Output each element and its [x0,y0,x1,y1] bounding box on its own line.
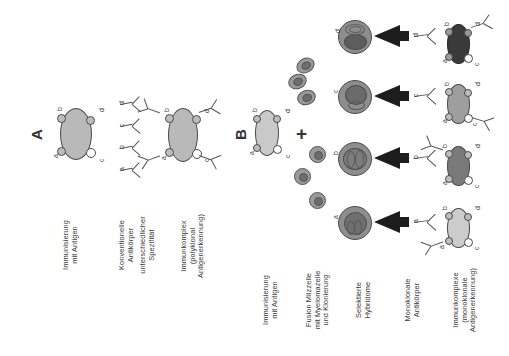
panel-a-complex-label-a: a [160,156,167,160]
complex-epitope-label-d-c: d [474,82,481,86]
panel-a-epitope-knob-b [57,114,66,123]
panel-letter-b: B [232,129,249,140]
production-arrow-tail-b [400,153,409,163]
complex-epitope-label-b-a: b [441,206,448,210]
hybridoma-label-d: d [334,29,341,33]
panel-a-caption-antibodies-2: unterschiedlicher Spezifität [139,202,156,288]
panel-b-epitope-label-d: d [284,109,291,113]
panel-b-epitope-label-b: b [251,108,258,112]
hybridoma-cell-d [338,20,372,54]
panel-a-antibody-label-d: d [118,101,125,105]
complex-epitope-label-a-a: a [438,245,445,249]
complex-epitope-label-c-d: c [473,63,480,67]
complex-epitope-label-a-d: a [441,59,448,63]
hybridoma-cell-b [338,142,372,176]
complex-epitope-label-d-a: d [474,206,481,210]
panel-b-caption-fusion: Fusion Milzzelle mit Myelomazelle und Kl… [305,252,331,348]
complex-epitope-label-c-c: c [471,123,478,127]
complex-epitope-label-b-b: b [441,144,448,148]
complex-epitope-label-d-b: d [474,144,481,148]
panel-a-epitope-label-c: c [98,159,105,163]
panel-b-epitope-label-a: a [248,151,255,155]
immune-complex-knob-d-c [464,89,472,97]
complex-epitope-label-c-b: c [473,185,480,189]
panel-b-caption-complex: Immunkomplexe (monoklonale Antigenerkenn… [452,248,478,352]
production-arrow-c [374,85,400,107]
panel-a-caption-complex: Immunkomplex (polyklonal Antigenerkennun… [180,196,206,296]
panel-a-complex-knob-d [192,115,201,124]
panel-a-complex-knob-c [192,149,202,159]
figure-canvas: A b d a c d c b a b d a c [0,0,509,356]
panel-letter-a: A [28,129,45,140]
immune-complex-knob-d-b [464,151,472,159]
panel-b-epitope-knob-d [273,115,281,123]
hybridoma-label-c: c [332,90,339,94]
immune-complex-knob-b-b [445,150,453,158]
panel-a-complex-knob-b [165,114,174,123]
immune-complex-knob-a-a [445,237,453,245]
complex-epitope-label-a-b: a [441,181,448,185]
immune-complex-knob-d-a [464,213,472,221]
panel-a-complex-label-b: b [163,108,170,112]
panel-a-caption-antibodies-1: Konventionelle Antikörper [118,202,135,288]
panel-a-caption-immunization: Immunisierung mit Antigen [62,202,79,288]
production-arrow-a [374,211,400,233]
panel-b-epitope-label-c: c [284,155,291,159]
panel-a-epitope-knob-c [86,148,96,158]
hybridoma-label-a: a [332,215,339,219]
immune-complex-knob-d-d [464,29,472,37]
panel-b-caption-hybridoma: Selektierte Hybridome [355,252,372,348]
immune-complex-knob-c-b [464,176,473,185]
panel-a-antibody-label-c: c [118,124,125,128]
complex-epitope-label-a-c: a [441,119,448,123]
production-arrow-tail-a [400,217,409,227]
production-arrow-tail-d [400,31,409,41]
complex-epitope-label-b-c: b [443,82,450,86]
panel-b-epitope-knob-c [273,145,282,154]
hybridoma-cell-a [338,206,372,240]
panel-b-caption-antibody: Monoklonale Antikörper [404,252,421,348]
hybridoma-cell-c [338,80,372,114]
hybridoma-label-b: b [332,151,339,155]
panel-b-epitope-knob-b [253,115,261,123]
immune-complex-knob-b-d [445,28,453,36]
panel-a-antibody-label-a: a [118,167,125,171]
monoclonal-antibody-label-a: a [412,219,419,223]
immune-complex-knob-c-d [464,54,473,63]
panel-a-epitope-label-b: b [56,107,63,111]
production-arrow-b [374,147,400,169]
spleen-myeloma-cell [294,168,311,185]
immune-complex-knob-c-a [464,238,473,247]
immune-complex-knob-b-c [445,88,453,96]
complex-epitope-label-b-d: b [443,22,450,26]
panel-a-epitope-label-a: a [52,154,59,158]
production-arrow-d [374,25,400,47]
production-arrow-tail-c [400,91,409,101]
immune-complex-knob-b-a [445,212,453,220]
panel-a-epitope-label-d: d [98,108,105,112]
panel-a-antibody-label-b: b [118,145,125,149]
spleen-myeloma-cell [295,87,318,108]
spleen-myeloma-cell [309,146,326,163]
monoclonal-antibody-label-d: d [412,33,419,37]
fusion-plus-operator: + [296,124,307,143]
monoclonal-antibody-label-c: c [412,94,419,98]
monoclonal-antibody-label-b: b [412,155,419,159]
panel-b-caption-immunization: Immunisierung mit Antigen [262,252,279,348]
panel-a-epitope-knob-d [86,116,95,125]
spleen-myeloma-cell [309,192,326,209]
